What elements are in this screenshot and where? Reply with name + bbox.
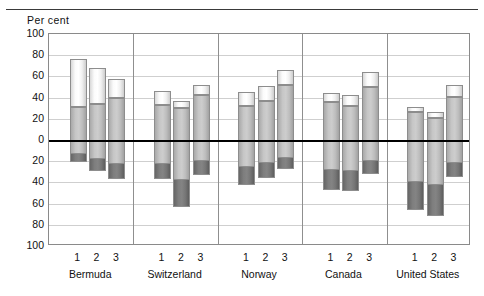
bar-segment-upper <box>362 72 379 87</box>
bar-segment-upper <box>446 85 463 97</box>
bar-segment-lower <box>173 179 190 207</box>
bar-segment-lower <box>108 163 125 179</box>
bar-segment-lower <box>446 162 463 178</box>
bar-segment-lower <box>258 162 275 178</box>
bar-segment-upper <box>70 59 87 107</box>
x-axis-bar-label: 2 <box>87 251 107 263</box>
bar-segment-upper <box>238 92 255 106</box>
y-axis-tick-label: 100 <box>0 239 44 251</box>
chart-figure: Per cent 10080604020020406080100 1231231… <box>0 0 484 296</box>
plot-area <box>48 33 470 245</box>
x-axis-bar-label: 1 <box>152 251 172 263</box>
x-axis-bar-label: 3 <box>444 251 464 263</box>
y-axis-tick-label: 40 <box>0 175 44 187</box>
y-axis-tick-labels: 10080604020020406080100 <box>0 33 44 245</box>
y-axis-tick-label: 40 <box>0 91 44 103</box>
x-axis-bar-label: 2 <box>171 251 191 263</box>
y-axis-tick-label: 80 <box>0 218 44 230</box>
bar-segment-lower <box>362 160 379 174</box>
bar-segment-lower <box>154 163 171 179</box>
bar-segment-upper <box>108 79 125 98</box>
bar-segment-upper <box>258 86 275 101</box>
group-separator <box>133 34 134 244</box>
bar-segment-lower <box>407 181 424 210</box>
x-axis-bar-label: 1 <box>236 251 256 263</box>
x-axis-group-label: United States <box>368 268 484 280</box>
bar-segment-upper <box>193 85 210 96</box>
y-axis-tick-label: 20 <box>0 112 44 124</box>
bar-segment-lower <box>70 153 87 162</box>
y-axis-tick-label: 60 <box>0 197 44 209</box>
bar-segment-lower <box>323 169 340 190</box>
bar-segment-upper <box>154 91 171 105</box>
zero-baseline <box>49 140 469 142</box>
bar-segment-lower <box>89 158 106 171</box>
x-axis-bar-label: 1 <box>405 251 425 263</box>
y-axis-tick-label: 80 <box>0 48 44 60</box>
x-axis-bar-label: 2 <box>340 251 360 263</box>
group-separator <box>218 34 219 244</box>
group-separator <box>387 34 388 244</box>
x-axis-bar-label: 2 <box>255 251 275 263</box>
x-axis-bar-label: 3 <box>359 251 379 263</box>
x-axis-bar-label: 3 <box>106 251 126 263</box>
bar-segment-lower <box>342 170 359 191</box>
bar-segment-upper <box>323 93 340 101</box>
y-axis-tick-label: 20 <box>0 154 44 166</box>
x-axis-bar-label: 3 <box>190 251 210 263</box>
bar-segment-upper <box>277 70 294 85</box>
bar-segment-upper <box>89 68 106 104</box>
y-axis-tick-label: 100 <box>0 27 44 39</box>
bar-segment-lower <box>238 166 255 185</box>
bar-segment-upper <box>342 95 359 106</box>
bar-segment-lower <box>277 157 294 169</box>
group-separator <box>302 34 303 244</box>
x-axis-bar-label: 1 <box>67 251 87 263</box>
y-axis-title: Per cent <box>27 14 69 26</box>
y-axis-tick-label: 0 <box>0 133 44 145</box>
bar-segment-upper <box>173 101 190 108</box>
x-axis-bar-label: 3 <box>275 251 295 263</box>
y-axis-tick-label: 60 <box>0 69 44 81</box>
header-rule <box>6 9 478 10</box>
x-axis-bar-label: 2 <box>424 251 444 263</box>
bar-segment-lower <box>193 160 210 175</box>
bar-segment-lower <box>427 184 444 216</box>
x-axis-bar-label: 1 <box>320 251 340 263</box>
